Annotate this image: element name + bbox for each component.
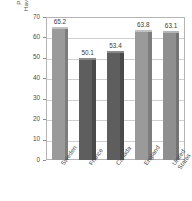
y-axis-tick-label: 70 [33,13,40,20]
bar-side [65,27,69,160]
bar-top [79,58,96,60]
y-axis-tick: 0 [0,160,46,161]
bar-slot: 53.4 [107,17,124,160]
x-axis-label-slot: Sweden [46,161,74,201]
bar-slot: 65.2 [52,17,69,160]
bar-slot: 63.1 [163,17,180,160]
bar-face [135,30,148,160]
bar-face [79,58,92,160]
bar-side [120,51,124,160]
y-axis-tick: 20 [0,119,46,120]
bar[interactable] [135,30,152,160]
y-axis-tick-label: 20 [33,115,40,122]
bar-chart: Percentage of Women Having Had Sex by Ag… [0,0,192,201]
y-axis-title-line-2: Having Had Sex by Age 18 [23,0,30,11]
bar-top [52,27,69,29]
y-axis-tick-label: 10 [33,135,40,142]
bar[interactable] [163,31,180,160]
bar-top [107,51,124,53]
y-axis-tick-label: 30 [33,94,40,101]
bar-side [148,30,152,160]
bar-value-label: 53.4 [109,42,121,49]
bar[interactable] [107,51,124,160]
bar[interactable] [79,58,96,160]
y-axis-tick: 70 [0,17,46,18]
y-axis-tick-label: 50 [33,53,40,60]
bar-value-label: 65.2 [54,18,66,25]
x-axis: SwedenFranceCanadaEnglandUnitedStates [46,161,185,201]
bar-slot: 50.1 [79,17,96,160]
bar-side [92,58,96,160]
bar-slot: 63.8 [135,17,152,160]
y-axis-tick: 60 [0,37,46,38]
bar-top [163,31,180,33]
y-axis-tick-label: 40 [33,74,40,81]
y-axis-tick: 40 [0,78,46,79]
bar-top [135,30,152,32]
bar-face [107,51,120,160]
y-axis-tick: 30 [0,99,46,100]
x-axis-label-slot: France [74,161,102,201]
y-axis-tick: 50 [0,58,46,59]
bar-value-label: 63.1 [165,22,177,29]
y-axis-tick-label: 60 [33,33,40,40]
bar-value-label: 50.1 [81,49,93,56]
bars-layer: 65.250.153.463.863.1 [46,17,185,160]
x-axis-label-slot: England [129,161,157,201]
x-axis-label-slot: UnitedStates [157,161,185,201]
y-axis-tick: 10 [0,140,46,141]
y-axis-tick-label: 0 [36,156,40,163]
bar-face [52,27,65,160]
bar-value-label: 63.8 [137,21,149,28]
y-axis: 010203040506070 [0,17,46,160]
x-axis-label-slot: Canada [102,161,130,201]
bar-face [163,31,176,160]
bar-side [176,31,180,160]
bar[interactable] [52,27,69,160]
